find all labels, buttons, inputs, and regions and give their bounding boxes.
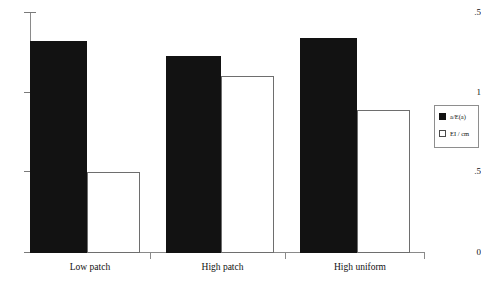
x-axis-category-label-high-uniform: High uniform bbox=[300, 262, 420, 273]
y-axis-tick-label: 1 bbox=[459, 88, 481, 97]
x-axis-tick bbox=[285, 252, 286, 259]
x-axis-tick bbox=[150, 252, 151, 259]
bar-chart: .5 1 .5 0 Low patch High patch High unif… bbox=[0, 0, 481, 283]
y-axis-tick bbox=[24, 12, 36, 13]
bar-low-patch-series-0 bbox=[30, 41, 87, 253]
bar-high-patch-series-0 bbox=[166, 56, 221, 253]
bar-high-uniform-series-0 bbox=[300, 38, 357, 253]
bar-high-uniform-series-1 bbox=[357, 110, 410, 253]
y-axis-tick-label: .5 bbox=[459, 167, 481, 176]
bar-low-patch-series-1 bbox=[87, 172, 140, 253]
y-axis-tick-label: .5 bbox=[459, 8, 481, 17]
y-axis-tick-label: 0 bbox=[459, 248, 481, 257]
x-axis-category-label-low-patch: Low patch bbox=[35, 262, 145, 273]
legend-label-series-1: EI / cm bbox=[450, 130, 469, 137]
x-axis-category-label-high-patch: High patch bbox=[165, 262, 280, 273]
hollow-square-swatch-icon bbox=[439, 130, 446, 137]
chart-legend: a/E(a) EI / cm bbox=[434, 105, 479, 148]
filled-square-swatch-icon bbox=[439, 113, 446, 120]
legend-label-series-0: a/E(a) bbox=[450, 113, 466, 120]
x-axis-tick bbox=[424, 252, 425, 259]
legend-entry-series-0: a/E(a) bbox=[439, 113, 466, 120]
bar-high-patch-series-1 bbox=[221, 76, 274, 253]
legend-entry-series-1: EI / cm bbox=[439, 130, 469, 137]
